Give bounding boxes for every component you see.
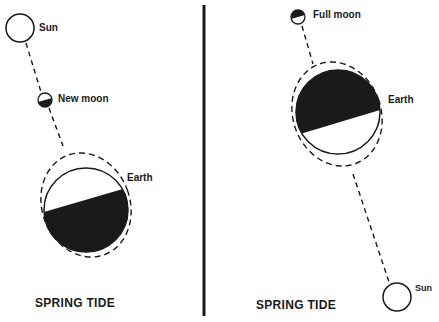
full-moon-icon	[287, 6, 307, 24]
left-panel: Sun New moon Earth SPRING TIDE	[6, 14, 153, 310]
sun-icon	[383, 283, 411, 311]
alignment-line	[302, 26, 313, 64]
right-panel: Full moon Earth Sun SPRING TIDE	[256, 6, 432, 312]
sun-label: Sun	[415, 283, 432, 293]
alignment-line	[353, 174, 389, 282]
moon-label: New moon	[58, 93, 109, 104]
sun-icon	[6, 14, 34, 42]
sun-label: Sun	[39, 22, 58, 33]
caption: SPRING TIDE	[256, 298, 336, 312]
new-moon-icon	[37, 93, 55, 111]
earth-label: Earth	[388, 94, 414, 105]
alignment-line	[49, 108, 63, 146]
alignment-line	[26, 43, 41, 92]
caption: SPRING TIDE	[35, 296, 115, 310]
earth-label: Earth	[127, 172, 153, 183]
spring-tide-diagram: Sun New moon Earth SPRING TIDE Full moon…	[0, 0, 439, 322]
moon-label: Full moon	[313, 9, 361, 20]
